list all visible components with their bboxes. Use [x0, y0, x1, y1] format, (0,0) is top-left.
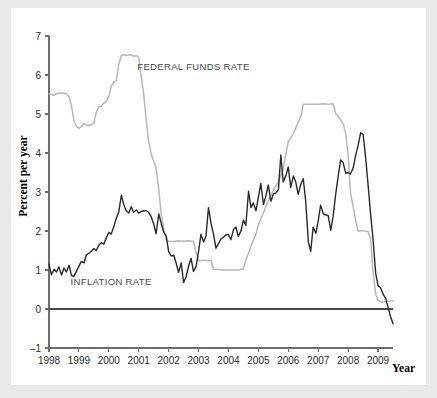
- x-tick-label: 2008: [337, 355, 360, 366]
- x-tick-label: 2007: [307, 355, 330, 366]
- series-path-federal-funds-rate: [49, 55, 393, 302]
- y-tick-label: 4: [35, 148, 41, 159]
- y-tick-label: 6: [35, 70, 41, 81]
- chart-card: –101234567 19981999200020012002200320042…: [11, 8, 426, 385]
- x-tick-label: 2000: [98, 355, 121, 366]
- y-tick-label: 3: [35, 187, 41, 198]
- x-tick-label: 2004: [217, 355, 240, 366]
- series-annotations: FEDERAL FUNDS RATEINFLATION RATE: [71, 61, 250, 287]
- series-label: INFLATION RATE: [71, 276, 152, 287]
- x-tick-label: 2009: [367, 355, 390, 366]
- y-axis-title: Percent per year: [17, 135, 30, 216]
- x-tick-label: 2003: [187, 355, 210, 366]
- x-tick-label: 2001: [128, 355, 151, 366]
- x-tick-label: 2002: [158, 355, 181, 366]
- x-tick-label: 1999: [68, 355, 91, 366]
- series-label: FEDERAL FUNDS RATE: [137, 61, 249, 72]
- line-chart: –101234567 19981999200020012002200320042…: [11, 8, 426, 385]
- y-tick-label: 5: [35, 109, 41, 120]
- x-tick-label: 1998: [38, 355, 61, 366]
- y-tick-label: 2: [35, 226, 41, 237]
- x-axis-title: Year: [392, 362, 415, 374]
- x-tick-label: 2006: [277, 355, 300, 366]
- series-path-inflation-rate: [49, 133, 393, 324]
- y-tick-label: 0: [35, 304, 41, 315]
- y-tick-label: 1: [35, 265, 41, 276]
- x-tick-label: 2005: [247, 355, 270, 366]
- y-tick-label: 7: [35, 31, 41, 42]
- y-axis: –101234567: [30, 31, 49, 354]
- x-axis: 1998199920002001200220032004200520062007…: [38, 348, 393, 366]
- figure-root: –101234567 19981999200020012002200320042…: [0, 0, 437, 398]
- y-tick-label: –1: [30, 343, 42, 354]
